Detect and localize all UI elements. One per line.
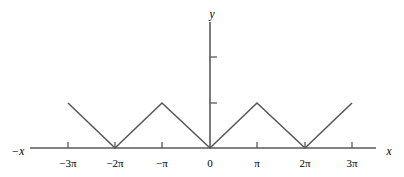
x-tick-label-neg-3pi: −3π (59, 157, 76, 169)
x-tick-label-3pi: 3π (346, 157, 357, 169)
x-tick-label-pi: π (254, 157, 260, 169)
x-tick-label-neg-2pi: −2π (106, 157, 123, 169)
x-tick-label-neg-pi: −π (156, 157, 168, 169)
plot-canvas (0, 0, 404, 177)
x-axis-label-positive: x (386, 145, 391, 157)
y-axis-ticks (210, 57, 217, 103)
y-axis-label: y (209, 8, 214, 20)
graph-figure: y −x x −3π −2π −π 0 π 2π 3π (0, 0, 404, 177)
x-tick-label-zero: 0 (207, 157, 213, 169)
x-axis-label-negative: −x (12, 145, 25, 157)
x-tick-label-2pi: 2π (299, 157, 310, 169)
